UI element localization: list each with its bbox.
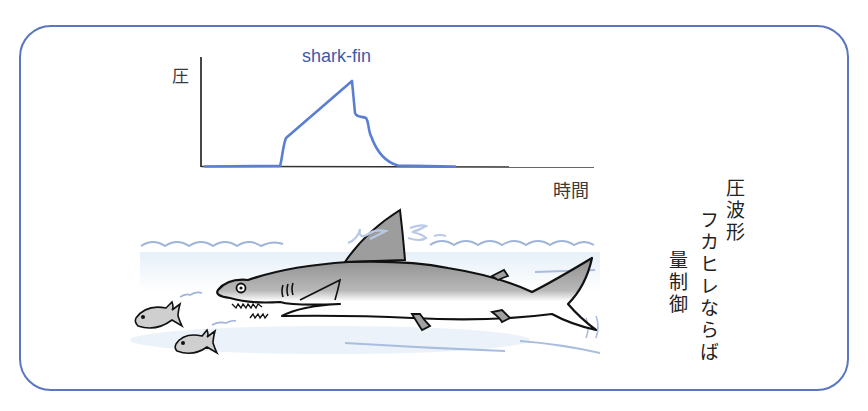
caption-column-3: 量制御 <box>667 250 686 316</box>
caption-column-1: 圧波形 <box>724 178 743 244</box>
fish-1 <box>135 292 202 328</box>
caption-column-2: フカヒレならば <box>698 210 717 364</box>
shark-teeth <box>232 304 268 318</box>
